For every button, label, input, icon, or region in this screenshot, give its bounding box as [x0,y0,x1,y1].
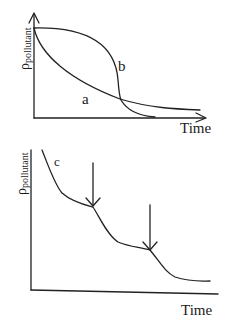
bottom-y-axis-label: ρpollutant [15,152,30,195]
top-y-axis-label: ρpollutant [18,27,33,70]
bottom-x-axis-label: Time [181,303,212,318]
curve-b-label: b [118,59,126,74]
curve-c-label: c [54,155,60,168]
top-x-axis-label: Time [180,121,211,136]
bottom-x-axis [31,290,218,294]
diagram-canvas [0,0,229,326]
curve-a [34,28,200,110]
curve-a-label: a [82,92,89,107]
curve-c [42,150,210,281]
